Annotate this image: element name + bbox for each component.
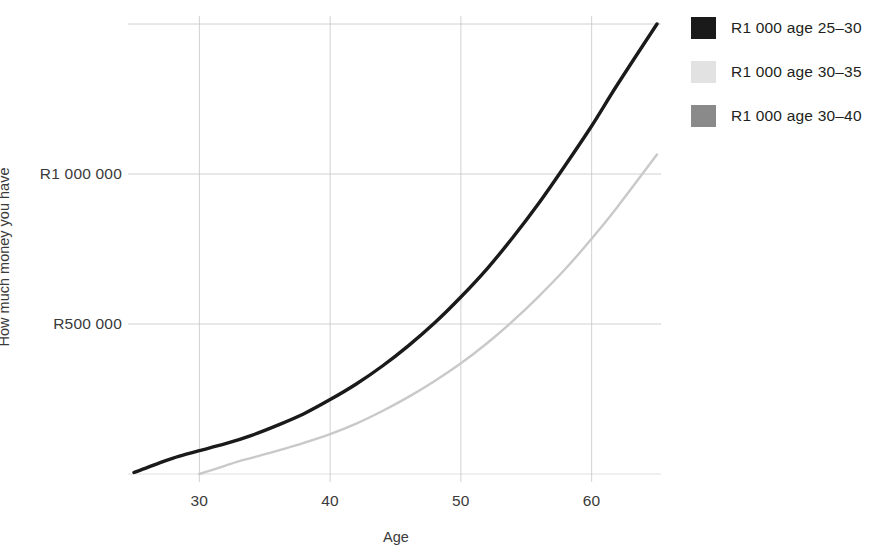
legend-swatch-icon — [691, 17, 716, 39]
legend-swatch-icon — [691, 105, 716, 127]
legend-item[interactable]: R1 000 age 30–35 — [691, 61, 869, 83]
x-tick-label: 30 — [191, 492, 209, 510]
x-tick-label: 40 — [321, 492, 339, 510]
chart-legend: R1 000 age 25–30R1 000 age 30–35R1 000 a… — [691, 17, 869, 149]
series-lines — [134, 24, 657, 474]
legend-item-label: R1 000 age 30–40 — [731, 107, 862, 125]
y-tick-label: R1 000 000 — [0, 165, 122, 183]
chart-figure: R1 000 000R500 000 30405060 How much mon… — [0, 0, 869, 558]
legend-swatch-icon — [691, 61, 716, 83]
x-axis-title: Age — [383, 529, 409, 545]
legend-item[interactable]: R1 000 age 25–30 — [691, 17, 869, 39]
x-tick-label: 50 — [452, 492, 470, 510]
legend-item-label: R1 000 age 30–35 — [731, 63, 862, 81]
gridlines — [128, 16, 661, 482]
plot-area: R1 000 000R500 000 30405060 How much mon… — [0, 0, 680, 558]
series-line — [199, 155, 657, 475]
legend-item[interactable]: R1 000 age 30–40 — [691, 105, 869, 127]
legend-item-label: R1 000 age 25–30 — [731, 19, 862, 37]
x-tick-label: 60 — [583, 492, 601, 510]
plot-svg — [0, 0, 680, 558]
y-axis-title: How much money you have — [0, 168, 12, 347]
y-tick-label: R500 000 — [0, 315, 122, 333]
